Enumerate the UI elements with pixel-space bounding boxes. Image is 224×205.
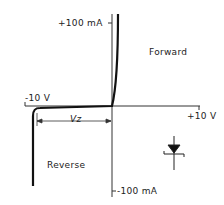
reverse-label: Reverse <box>47 160 85 170</box>
forward-label: Forward <box>149 47 187 57</box>
x-min-label: -10 V <box>25 93 50 103</box>
x-max-label: +10 V <box>187 111 217 121</box>
zener-iv-diagram: +100 mA -100 mA -10 V +10 V Forward Reve… <box>0 0 224 205</box>
vz-label: Vz <box>70 114 81 124</box>
y-min-label: -100 mA <box>117 186 157 196</box>
zener-diode-icon <box>164 136 184 170</box>
y-max-label: +100 mA <box>58 18 103 28</box>
